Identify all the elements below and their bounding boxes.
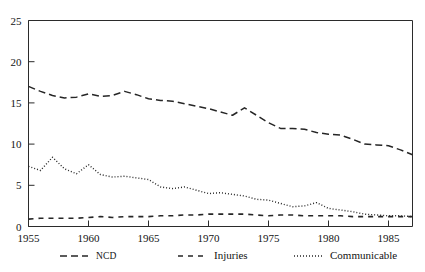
plot-frame: [29, 21, 413, 227]
series-line-injuries: [29, 214, 413, 219]
series-line-communicable: [29, 157, 413, 216]
plot-border: [29, 21, 413, 227]
legend-label-communicable: Communicable: [330, 249, 397, 261]
x-axis-tick-group: 1955196019651970197519801985: [18, 221, 401, 244]
x-tick-label: 1980: [318, 232, 341, 244]
y-tick-label: 10: [11, 138, 23, 150]
y-tick-label: 15: [11, 97, 23, 109]
x-tick-label: 1955: [18, 232, 41, 244]
x-tick-label: 1975: [258, 232, 281, 244]
y-axis-tick-group: 0510152025: [11, 15, 35, 233]
legend-label-ncd: NCD: [96, 251, 117, 261]
line-chart: 0510152025 1955196019651970197519801985 …: [0, 0, 425, 272]
y-tick-label: 20: [11, 56, 23, 68]
series-group: [29, 86, 413, 219]
series-line-ncd: [29, 86, 413, 154]
x-tick-label: 1985: [378, 232, 401, 244]
chart-container: 0510152025 1955196019651970197519801985 …: [0, 0, 425, 272]
y-tick-label: 25: [11, 15, 23, 27]
chart-legend: NCDInjuriesCommunicable: [60, 249, 397, 261]
x-tick-label: 1965: [138, 232, 161, 244]
y-tick-label: 5: [16, 179, 22, 191]
x-tick-label: 1970: [198, 232, 221, 244]
x-tick-label: 1960: [78, 232, 101, 244]
legend-label-injuries: Injuries: [214, 249, 248, 261]
